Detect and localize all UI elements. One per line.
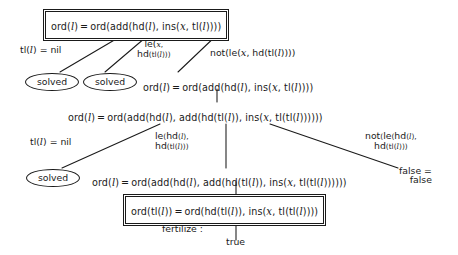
node-false-line2: false [399, 175, 432, 184]
edge-goal3-solved3 [62, 124, 160, 168]
edge-label-le-x-hd: le(x, hd(tl(l))) [137, 39, 171, 58]
node-false-equals-false: false = false [399, 166, 432, 185]
edge-label-not-le-hd-hd: not(le(hd(l), hd(tl(l))) [365, 131, 417, 150]
edge-label-not-le-x-hd: not(le(x, hd(tl(l)))) [210, 47, 295, 58]
edge-label-tl-nil-lower: tl(l) = nil [30, 136, 71, 147]
node-goal-3[interactable]: ord(l)=ord(add(hd(l), add(hd(tl(l)), ins… [68, 106, 323, 125]
edge-label-le-hd-hd-line2: hd(tl(l))) [155, 141, 189, 151]
node-goal-2[interactable]: ord(l)=ord(add(hd(l), ins(x, tl(l)))) [143, 76, 313, 95]
node-goal-2-text: ord(l)=ord(add(hd(l), ins(x, tl(l)))) [143, 82, 313, 93]
node-goal-4[interactable]: ord(l)=ord(add(hd(l), add(hd(tl(l)), ins… [92, 171, 347, 190]
node-leaf-boxed[interactable]: ord(tl(l))=ord(hd(tl(l)), ins(x, tl(tl(l… [125, 196, 324, 224]
edge-label-fertilize: fertilize : [162, 223, 203, 234]
edge-label-not-le-hd-hd-line2: hd(tl(l))) [365, 141, 417, 151]
node-root-text: ord(l)=ord(add(hd(l), ins(x, tl(l)))) [51, 21, 221, 32]
edge-label-tl-nil-upper: tl(l) = nil [20, 44, 61, 55]
node-solved-1[interactable]: solved [25, 73, 79, 91]
node-solved-2[interactable]: solved [83, 73, 137, 91]
node-goal-4-text: ord(l)=ord(add(hd(l), add(hd(tl(l)), ins… [92, 177, 347, 188]
node-solved-3-text: solved [38, 172, 68, 183]
edge-label-not-le-hd-hd-line1: not(le(hd(l), [365, 131, 417, 141]
node-leaf-boxed-text: ord(tl(l))=ord(hd(tl(l)), ins(x, tl(tl(l… [131, 206, 318, 217]
node-true-leaf: true [226, 236, 245, 247]
edge-label-le-x-hd-line2: hd(tl(l))) [137, 49, 171, 59]
edge-label-le-hd-hd: le(hd(l), hd(tl(l))) [155, 131, 189, 150]
node-solved-1-text: solved [37, 76, 67, 87]
node-root[interactable]: ord(l)=ord(add(hd(l), ins(x, tl(l)))) [45, 11, 227, 39]
proof-tree-diagram: ord(l)=ord(add(hd(l), ins(x, tl(l)))) tl… [0, 0, 458, 255]
node-solved-2-text: solved [95, 76, 125, 87]
node-solved-3[interactable]: solved [26, 169, 80, 187]
node-goal-3-text: ord(l)=ord(add(hd(l), add(hd(tl(l)), ins… [68, 112, 323, 123]
